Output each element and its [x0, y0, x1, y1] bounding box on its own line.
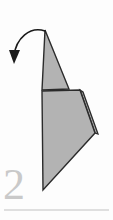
arrow-head-icon [9, 50, 20, 64]
paper-model-group [42, 30, 98, 190]
origami-step-figure: 2 [0, 0, 113, 220]
upper-triangle-flap [42, 30, 69, 90]
fold-direction-arrow-group [9, 30, 45, 64]
step-number-label: 2 [3, 163, 25, 207]
